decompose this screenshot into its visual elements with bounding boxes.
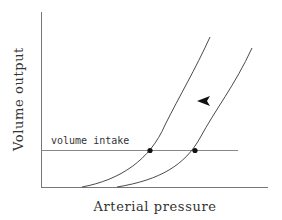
y-axis-label: Volume output <box>11 47 26 152</box>
volume-intake-label: volume intake <box>51 135 129 146</box>
output-curve-left <box>82 37 210 187</box>
diagram-canvas: volume intake Arterial pressure Volume o… <box>0 0 282 220</box>
output-curve-right <box>117 48 252 187</box>
arrow-left-icon <box>197 96 210 106</box>
equilibrium-point-right <box>192 148 197 153</box>
equilibrium-point-left <box>147 148 152 153</box>
x-axis-label: Arterial pressure <box>93 199 217 214</box>
